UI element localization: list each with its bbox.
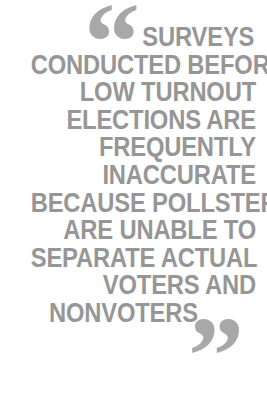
quote-graphic: “ SURVEYS CONDUCTED BEFORE LOW TURNOUT E… xyxy=(0,0,267,397)
quote-line-8: ARE UNABLE TO xyxy=(31,217,256,245)
quote-line-1: SURVEYS xyxy=(31,24,256,52)
close-quote-icon: ” xyxy=(188,300,244,397)
quote-line-3: LOW TURNOUT xyxy=(31,79,256,107)
quote-line-9: SEPARATE ACTUAL xyxy=(31,245,256,273)
quote-text-block: SURVEYS CONDUCTED BEFORE LOW TURNOUT ELE… xyxy=(0,24,256,328)
quote-line-2: CONDUCTED BEFORE xyxy=(31,52,256,80)
quote-line-5: FREQUENTLY xyxy=(31,134,256,162)
quote-line-4: ELECTIONS ARE xyxy=(31,107,256,135)
quote-line-6: INACCURATE xyxy=(31,162,256,190)
quote-line-7: BECAUSE POLLSTERS xyxy=(31,190,256,218)
